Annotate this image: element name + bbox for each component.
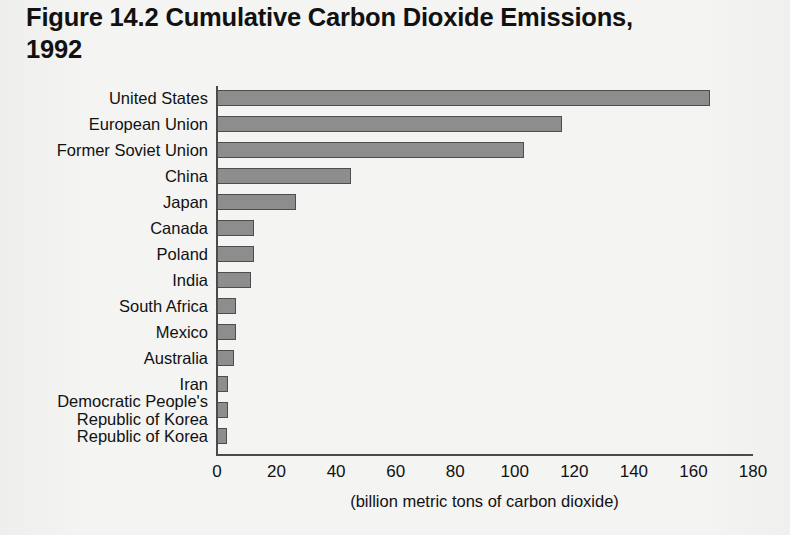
bar-category-label: India (0, 272, 208, 289)
bar-category-label: Iran (0, 376, 208, 393)
bar-category-label: Japan (0, 194, 208, 211)
x-axis-caption: (billion metric tons of carbon dioxide) (216, 492, 753, 511)
bar (217, 194, 296, 210)
bar (217, 272, 251, 288)
x-axis-ticks: 020406080100120140160180 (0, 462, 790, 486)
bar-category-label: Mexico (0, 324, 208, 341)
bar-row: Republic of Korea (0, 424, 790, 450)
bar-category-label: South Africa (0, 298, 208, 315)
bar (217, 350, 234, 366)
bar (217, 116, 562, 132)
bar-category-label: Poland (0, 246, 208, 263)
bar (217, 142, 524, 158)
bar-row: China (0, 164, 790, 190)
bar-chart: United StatesEuropean UnionFormer Soviet… (0, 84, 790, 484)
bar (217, 90, 710, 106)
x-axis-line (216, 454, 753, 456)
bar-category-label: European Union (0, 116, 208, 133)
page-title: Figure 14.2Cumulative Carbon Dioxide Emi… (26, 2, 726, 65)
bar-category-label: Democratic People'sRepublic of Korea (0, 393, 208, 428)
bar-row: India (0, 268, 790, 294)
bar-row: Democratic People'sRepublic of Korea (0, 398, 790, 424)
bar-row: Poland (0, 242, 790, 268)
figure-number: Figure 14.2 (26, 3, 165, 31)
bar-row: Australia (0, 346, 790, 372)
bar-category-label-line1: Democratic People's (0, 393, 208, 411)
bar-category-label: United States (0, 90, 208, 107)
bar-row: Japan (0, 190, 790, 216)
bar (217, 298, 236, 314)
bar (217, 168, 351, 184)
bar (217, 376, 228, 392)
bar-category-label: Former Soviet Union (0, 142, 208, 159)
figure-page: Figure 14.2Cumulative Carbon Dioxide Emi… (0, 0, 790, 535)
bar (217, 402, 228, 418)
bar (217, 428, 227, 444)
bar-row: United States (0, 86, 790, 112)
figure-title-text: Cumulative Carbon Dioxide Emissions, (165, 3, 633, 31)
bar (217, 246, 254, 262)
bar-category-label: Republic of Korea (0, 428, 208, 445)
bar-row: South Africa (0, 294, 790, 320)
bar-row: European Union (0, 112, 790, 138)
bar-row: Former Soviet Union (0, 138, 790, 164)
figure-title-year: 1992 (26, 35, 82, 63)
x-tick-label: 180 (718, 462, 788, 482)
bar-category-label: China (0, 168, 208, 185)
bar-category-label: Australia (0, 350, 208, 367)
bar-row: Canada (0, 216, 790, 242)
bar-row: Mexico (0, 320, 790, 346)
bar (217, 324, 236, 340)
bar (217, 220, 254, 236)
bar-category-label: Canada (0, 220, 208, 237)
